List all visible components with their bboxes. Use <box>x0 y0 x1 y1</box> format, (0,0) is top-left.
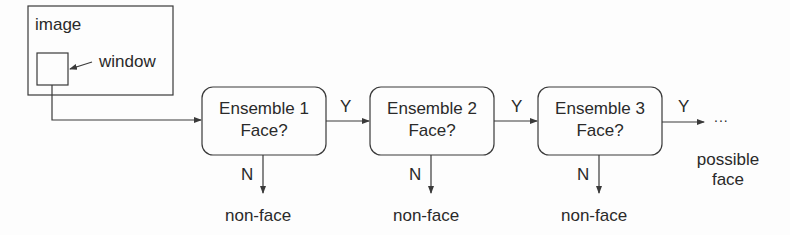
yes-label-2: Y <box>511 97 522 116</box>
yes-label-1: Y <box>340 97 351 116</box>
no-label-1: N <box>241 165 253 184</box>
no-label-3: N <box>577 165 589 184</box>
reject-label-2: non-face <box>393 206 459 225</box>
ensemble-3-title: Ensemble 3 <box>538 98 662 120</box>
ensemble-1-text: Ensemble 1 Face? <box>202 98 326 142</box>
ensemble-2-title: Ensemble 2 <box>370 98 494 120</box>
window-pointer-arrow <box>70 62 92 69</box>
output-label-line2: face <box>688 170 768 190</box>
window-box <box>37 53 68 85</box>
output-label-line1: possible <box>688 150 768 170</box>
input-arrow <box>52 85 201 120</box>
reject-label-3: non-face <box>561 206 627 225</box>
ensemble-3-question: Face? <box>538 120 662 142</box>
no-label-2: N <box>409 165 421 184</box>
yes-label-3: Y <box>678 97 689 116</box>
ensemble-1-question: Face? <box>202 120 326 142</box>
ensemble-3-text: Ensemble 3 Face? <box>538 98 662 142</box>
output-label: possible face <box>688 150 768 190</box>
image-label: image <box>35 15 81 34</box>
ensemble-2-question: Face? <box>370 120 494 142</box>
window-label: window <box>99 52 156 71</box>
continuation-ellipsis: ... <box>714 108 729 127</box>
cascade-diagram: image window Ensemble 1 Face? Y N non-fa… <box>0 0 790 235</box>
ensemble-2-text: Ensemble 2 Face? <box>370 98 494 142</box>
reject-label-1: non-face <box>225 206 291 225</box>
ensemble-1-title: Ensemble 1 <box>202 98 326 120</box>
